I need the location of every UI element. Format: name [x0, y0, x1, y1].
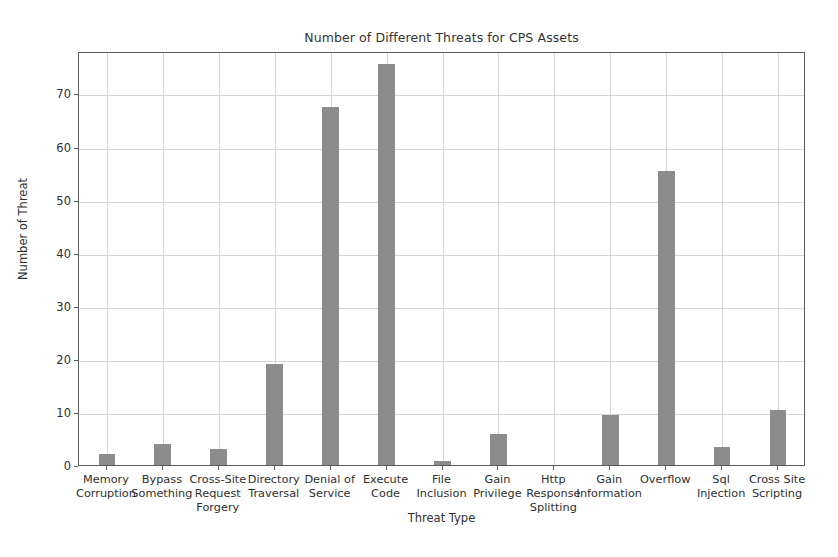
bar: [434, 461, 451, 465]
y-axis-label: Number of Threat: [16, 144, 30, 314]
gridline-vertical: [610, 53, 611, 465]
bar: [154, 444, 171, 465]
y-axis-tick-label: 70: [56, 87, 71, 101]
x-axis-tick-mark: [553, 466, 554, 470]
gridline-vertical: [107, 53, 108, 465]
gridline-horizontal: [79, 414, 804, 415]
x-axis-tick-mark: [442, 466, 443, 470]
x-axis-tick-mark: [665, 466, 666, 470]
y-axis-tick-labels: 010203040506070: [40, 52, 71, 466]
chart-figure: Number of Different Threats for CPS Asse…: [0, 0, 838, 557]
gridline-horizontal: [79, 255, 804, 256]
x-axis-tick-mark: [497, 466, 498, 470]
y-axis-tick-mark: [74, 466, 78, 467]
bar: [266, 364, 283, 465]
chart-title: Number of Different Threats for CPS Asse…: [78, 30, 805, 45]
y-axis-tick-label: 20: [56, 353, 71, 367]
y-axis-tick-label: 30: [56, 300, 71, 314]
y-axis-tick-label: 10: [56, 406, 71, 420]
gridline-vertical: [219, 53, 220, 465]
y-axis-tick-mark: [74, 254, 78, 255]
y-axis-tick-mark: [74, 360, 78, 361]
x-axis-tick-mark: [609, 466, 610, 470]
y-axis-tick-mark: [74, 201, 78, 202]
x-axis-tick-mark: [274, 466, 275, 470]
bar: [602, 415, 619, 465]
bar: [490, 434, 507, 465]
gridline-vertical: [722, 53, 723, 465]
y-axis-tick-label: 60: [56, 141, 71, 155]
y-axis-tick-mark: [74, 413, 78, 414]
y-axis-tick-label: 40: [56, 247, 71, 261]
gridline-vertical: [163, 53, 164, 465]
gridline-vertical: [554, 53, 555, 465]
y-axis-tick-label: 0: [64, 459, 71, 473]
bar: [658, 171, 675, 465]
bar: [378, 64, 395, 465]
y-axis-tick-mark: [74, 148, 78, 149]
y-axis-tick-mark: [74, 94, 78, 95]
x-axis-tick-mark: [218, 466, 219, 470]
bar: [770, 410, 787, 465]
x-axis-tick-mark: [777, 466, 778, 470]
bar: [714, 447, 731, 465]
x-axis-label: Threat Type: [78, 511, 805, 525]
x-axis-tick-mark: [162, 466, 163, 470]
gridline-horizontal: [79, 149, 804, 150]
y-axis-tick-mark: [74, 307, 78, 308]
gridline-horizontal: [79, 308, 804, 309]
x-axis-tick-mark: [721, 466, 722, 470]
bar: [99, 454, 116, 465]
x-axis-tick-mark: [386, 466, 387, 470]
gridline-horizontal: [79, 202, 804, 203]
gridline-vertical: [443, 53, 444, 465]
gridline-horizontal: [79, 95, 804, 96]
bar: [210, 449, 227, 465]
plot-area: [78, 52, 805, 466]
gridline-vertical: [498, 53, 499, 465]
x-axis-tick-mark: [106, 466, 107, 470]
x-axis-tick-mark: [330, 466, 331, 470]
gridline-horizontal: [79, 361, 804, 362]
y-axis-tick-label: 50: [56, 194, 71, 208]
x-axis-tick-labels: Memory CorruptionBypass SomethingCross-S…: [78, 466, 805, 512]
gridline-vertical: [778, 53, 779, 465]
bar: [322, 107, 339, 465]
x-axis-tick-label: Cross Site Scripting: [738, 473, 816, 501]
